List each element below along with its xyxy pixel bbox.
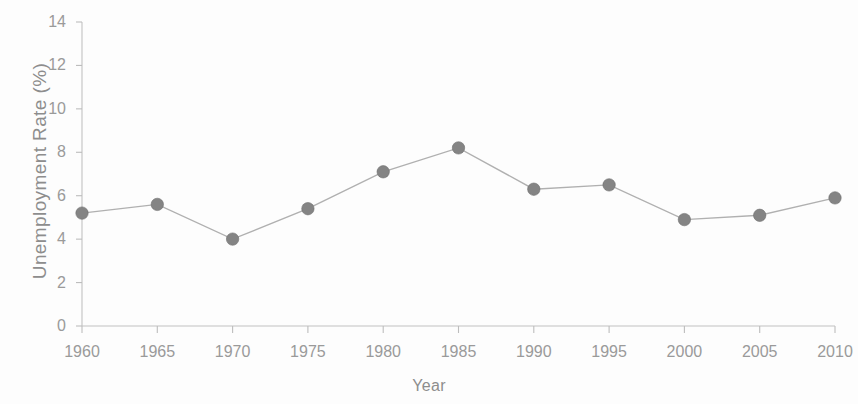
y-tick-label: 0	[26, 317, 66, 335]
series-line	[82, 148, 835, 239]
y-tick-label: 4	[26, 230, 66, 248]
data-point-marker	[678, 213, 690, 225]
y-tick-label: 6	[26, 187, 66, 205]
x-tick-label: 2005	[725, 343, 795, 361]
y-tick-label: 10	[26, 100, 66, 118]
plot-area: 0246810121419601965197019751980198519901…	[0, 0, 858, 404]
y-tick-label: 14	[26, 13, 66, 31]
y-tick-label: 8	[26, 143, 66, 161]
data-point-marker	[302, 203, 314, 215]
x-tick-label: 2000	[649, 343, 719, 361]
x-tick-label: 1990	[499, 343, 569, 361]
data-point-marker	[754, 209, 766, 221]
x-tick-label: 1965	[122, 343, 192, 361]
x-tick-label: 1970	[198, 343, 268, 361]
data-point-marker	[377, 166, 389, 178]
x-tick-label: 2010	[800, 343, 858, 361]
x-tick-label: 1985	[424, 343, 494, 361]
data-point-marker	[452, 142, 464, 154]
data-point-marker	[76, 207, 88, 219]
data-point-marker	[151, 198, 163, 210]
unemployment-rate-line-chart: Unemployment Rate (%) Year 0246810121419…	[0, 0, 858, 404]
x-tick-label: 1975	[273, 343, 343, 361]
x-tick-label: 1995	[574, 343, 644, 361]
x-tick-label: 1980	[348, 343, 418, 361]
data-point-marker	[603, 179, 615, 191]
data-point-marker	[528, 183, 540, 195]
data-point-marker	[226, 233, 238, 245]
y-tick-label: 2	[26, 274, 66, 292]
data-point-marker	[829, 192, 841, 204]
y-tick-label: 12	[26, 56, 66, 74]
x-tick-label: 1960	[47, 343, 117, 361]
